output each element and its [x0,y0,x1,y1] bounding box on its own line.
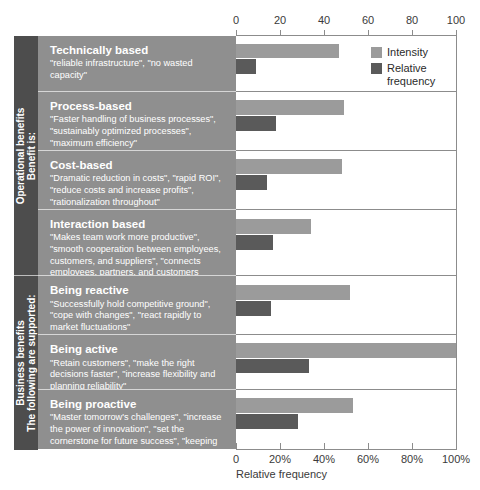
bottom-axis-tick-label: 20% [269,453,291,465]
spine-section-subtitle: Benefit is: [26,39,37,272]
bottom-axis-tick-label: 100% [442,453,470,465]
legend-item: Relative frequency [371,62,457,88]
bar-group [236,275,457,334]
legend-swatch-relative-frequency [371,63,382,74]
spine-section-business-benefits: Business benefitsThe following are suppo… [14,275,38,450]
spine-section-label: Operational benefitsBenefit is: [16,39,37,272]
bottom-axis-tick-label: 60% [357,453,379,465]
category-quotes: "Faster handling of business processes",… [50,114,227,149]
spine-section-title: Operational benefits [16,39,27,272]
category-label-row: Process-based"Faster handling of busines… [38,91,236,150]
bar-intensity [236,398,353,413]
category-title: Being active [50,342,227,356]
category-title: Technically based [50,43,227,57]
spine-section-label: Business benefitsThe following are suppo… [16,279,37,447]
spine-section-operational-benefits: Operational benefitsBenefit is: [14,36,38,275]
top-axis-tick-label: 40 [318,14,330,26]
bar-group [236,150,457,209]
category-label-row: Being proactive"Master tomorrow's challe… [38,389,236,449]
category-quotes: "Master tomorrow's challenges", "increas… [50,412,227,449]
bar-relative-frequency [236,359,309,374]
top-axis-tick-label: 80 [406,14,418,26]
bottom-axis-tick-mark [280,443,281,449]
bar-group [236,209,457,276]
top-axis: 020406080100 [236,14,456,36]
top-axis-tick-label: 20 [274,14,286,26]
top-axis-tick-label: 100 [447,14,465,26]
bottom-axis-tick-label: 40% [313,453,335,465]
bar-intensity [236,285,350,300]
category-title: Interaction based [50,217,227,231]
x-axis-title: Relative frequency [236,468,327,480]
bottom-axis-tick-label: 80% [401,453,423,465]
chart-legend: IntensityRelative frequency [371,46,457,91]
category-title: Being proactive [50,397,227,411]
category-quotes: "Successfully hold competitive ground", … [50,299,227,334]
bar-group [236,334,457,389]
bottom-axis-tick-label: 0 [233,453,239,465]
bottom-axis-tick-mark [324,443,325,449]
bar-group [236,389,457,449]
category-title: Cost-based [50,158,227,172]
bar-intensity [236,343,456,358]
category-label-panel: Technically based"reliable infrastructur… [38,36,236,449]
category-label-row: Cost-based"Dramatic reduction in costs",… [38,150,236,209]
category-label-row: Being active"Retain customers", "make th… [38,334,236,389]
category-label-row: Being reactive"Successfully hold competi… [38,275,236,334]
bottom-axis-tick-mark [412,443,413,449]
section-spine: Operational benefitsBenefit is:Business … [14,36,38,449]
bar-relative-frequency [236,414,298,429]
legend-label: Intensity [387,46,428,59]
bar-relative-frequency [236,175,267,190]
bar-group [236,91,457,150]
category-quotes: "Retain customers", "make the right deci… [50,358,227,389]
legend-label: Relative frequency [387,62,457,88]
legend-swatch-intensity [371,47,382,58]
bar-relative-frequency [236,59,256,74]
chart-figure: 020406080100 Operational benefitsBenefit… [0,0,480,490]
category-quotes: "Dramatic reduction in costs", "rapid RO… [50,173,227,208]
bar-relative-frequency [236,301,271,316]
category-quotes: "Makes team work more productive", "smoo… [50,232,227,275]
spine-section-subtitle: The following are supported: [26,279,37,447]
bar-intensity [236,100,344,115]
bar-intensity [236,44,339,59]
top-axis-tick-label: 0 [233,14,239,26]
category-quotes: "reliable infrastructure", "no wasted ca… [50,58,227,82]
bar-intensity [236,159,342,174]
category-title: Process-based [50,99,227,113]
bar-relative-frequency [236,116,276,131]
category-label-row: Interaction based"Makes team work more p… [38,209,236,276]
category-title: Being reactive [50,283,227,297]
legend-item: Intensity [371,46,457,59]
bar-relative-frequency [236,235,273,250]
top-axis-tick-label: 60 [362,14,374,26]
spine-section-title: Business benefits [16,279,27,447]
bar-intensity [236,219,311,234]
bottom-axis-tick-mark [236,443,237,449]
bottom-axis-tick-mark [368,443,369,449]
bottom-axis-tick-mark [456,443,457,449]
category-label-row: Technically based"reliable infrastructur… [38,36,236,91]
